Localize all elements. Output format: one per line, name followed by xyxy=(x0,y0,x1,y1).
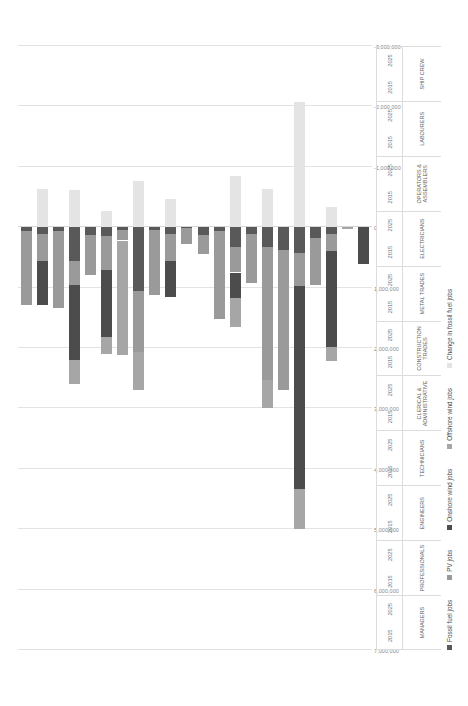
plot-area xyxy=(18,46,372,650)
bar-segment-onshore xyxy=(165,261,176,297)
year-cell: 2025 xyxy=(377,322,403,349)
bar-segment-pv xyxy=(69,261,80,285)
bar-row xyxy=(21,46,32,650)
bar-row xyxy=(262,46,273,650)
occupation-label: LABOURERS xyxy=(403,102,441,156)
legend-swatch-icon xyxy=(447,363,452,368)
bar-segment-change xyxy=(294,102,305,228)
year-label: 2015 xyxy=(387,246,393,258)
year-cell: 2015 xyxy=(377,349,403,376)
bar-row xyxy=(165,46,176,650)
legend-item[interactable]: Onshore wind jobs xyxy=(446,469,453,530)
bar-segment-pv xyxy=(37,234,48,261)
bar-segment-pv xyxy=(214,231,225,319)
category-group: 20152025PROFESSIONALS xyxy=(377,540,441,595)
bar-segment-onshore xyxy=(101,270,112,336)
legend-item[interactable]: Change in fossil fuel jobs xyxy=(446,289,453,368)
bar-segment-onshore xyxy=(294,286,305,489)
bar-row xyxy=(101,46,112,650)
year-label: 2015 xyxy=(387,466,393,478)
category-group: 20152025METAL TRADES xyxy=(377,266,441,321)
year-cell: 2015 xyxy=(377,294,403,321)
occupation-label: METAL TRADES xyxy=(403,267,441,321)
bar-segment-fossil xyxy=(294,227,305,252)
bar-segment-fossil xyxy=(198,227,209,235)
year-cell: 2015 xyxy=(377,239,403,266)
category-group: 20152025CONSTRUCTION TRADES xyxy=(377,321,441,376)
bar-segment-fossil xyxy=(278,227,289,250)
bar-segment-offshore xyxy=(294,489,305,529)
bar-segment-fossil xyxy=(69,227,80,261)
year-label: 2025 xyxy=(387,439,393,451)
bar-segment-fossil xyxy=(101,227,112,236)
occupation-label: PROFESSIONALS xyxy=(403,541,441,595)
bar-segment-pv xyxy=(165,234,176,261)
bar-segment-onshore xyxy=(326,251,337,347)
bar-segment-fossil xyxy=(246,227,257,234)
bar-segment-change xyxy=(326,207,337,227)
year-label: 2015 xyxy=(387,411,393,423)
bar-segment-fossil xyxy=(326,227,337,234)
occupation-label: ENGINEERS xyxy=(403,486,441,540)
bar-segment-change xyxy=(69,190,80,227)
bar-row xyxy=(294,46,305,650)
year-label: 2025 xyxy=(387,164,393,176)
bar-row xyxy=(342,46,353,650)
chart-legend: Fossil fuel jobsPV jobsOnshore wind jobs… xyxy=(446,289,453,650)
bar-segment-offshore xyxy=(117,241,128,355)
bar-row xyxy=(69,46,80,650)
year-cell: 2025 xyxy=(377,486,403,513)
bar-segment-pv xyxy=(21,231,32,305)
legend-label: PV jobs xyxy=(446,550,453,572)
year-cell: 2025 xyxy=(377,102,403,129)
bar-segment-onshore xyxy=(37,261,48,305)
occupation-label: CONSTRUCTION TRADES xyxy=(403,322,441,376)
bar-segment-pv xyxy=(278,250,289,390)
occupation-label: OPERATORS & ASSEMBLERS xyxy=(403,157,441,211)
bar-segment-pv xyxy=(181,228,192,244)
legend-item[interactable]: Offshore wind jobs xyxy=(446,388,453,449)
bar-segment-change xyxy=(165,199,176,227)
year-label: 2015 xyxy=(387,301,393,313)
bar-row xyxy=(133,46,144,650)
bar-row xyxy=(37,46,48,650)
bar-segment-pv xyxy=(133,291,144,353)
bar-segment-pv xyxy=(246,234,257,282)
bar-segment-pv xyxy=(53,231,64,307)
bar-segment-offshore xyxy=(262,380,273,408)
bar-segment-pv xyxy=(262,247,273,380)
year-cell: 2025 xyxy=(377,212,403,239)
year-label: 2025 xyxy=(387,274,393,286)
year-cell: 2015 xyxy=(377,458,403,485)
bar-segment-onshore xyxy=(358,227,369,264)
year-cell: 2025 xyxy=(377,541,403,568)
category-group: 20152025CLERICAL & ADMINISTRATIVE xyxy=(377,375,441,430)
category-group: 20152025OPERATORS & ASSEMBLERS xyxy=(377,156,441,211)
bar-row xyxy=(181,46,192,650)
category-group: 20152025MANAGERS xyxy=(377,595,441,650)
legend-item[interactable]: PV jobs xyxy=(446,550,453,580)
year-label: 2025 xyxy=(387,109,393,121)
bar-row xyxy=(53,46,64,650)
bar-segment-fossil xyxy=(37,227,48,234)
legend-swatch-icon xyxy=(447,575,452,580)
category-group: 20152025SHIP CREW xyxy=(377,46,441,101)
bar-segment-offshore xyxy=(326,347,337,361)
year-cell: 2025 xyxy=(377,376,403,403)
rotated-chart-canvas: 7,000,0006,000,0005,000,0004,000,0003,00… xyxy=(0,0,468,706)
occupation-label: MANAGERS xyxy=(403,596,441,649)
bar-segment-pv xyxy=(101,236,112,270)
category-group: 20152025TECHNICIANS xyxy=(377,430,441,485)
chart-figure: 7,000,0006,000,0005,000,0004,000,0003,00… xyxy=(0,0,468,706)
bar-row xyxy=(246,46,257,650)
year-cell: 2025 xyxy=(377,47,403,74)
bar-segment-onshore xyxy=(69,285,80,360)
bar-row xyxy=(85,46,96,650)
bar-row xyxy=(230,46,241,650)
legend-label: Fossil fuel jobs xyxy=(446,600,453,642)
bar-segment-pv xyxy=(230,247,241,272)
legend-swatch-icon xyxy=(447,444,452,449)
bar-segment-pv xyxy=(326,234,337,252)
year-cell: 2025 xyxy=(377,157,403,184)
legend-item[interactable]: Fossil fuel jobs xyxy=(446,600,453,650)
